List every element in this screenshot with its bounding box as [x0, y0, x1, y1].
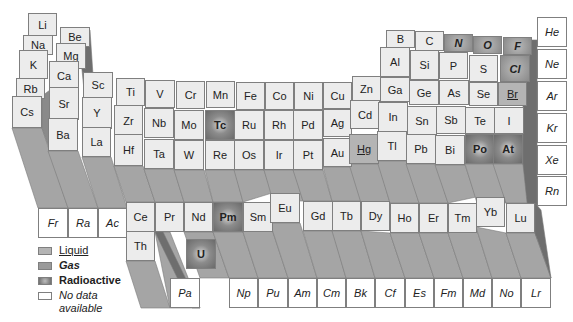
element-n: N	[444, 34, 473, 52]
element-zn: Zn	[352, 76, 381, 101]
element-pb: Pb	[406, 134, 436, 164]
element-th: Th	[126, 231, 155, 261]
element-ru: Ru	[234, 110, 264, 140]
element-br: Br	[498, 82, 527, 106]
legend-item-gas: Gas	[38, 259, 121, 274]
element-tb: Tb	[332, 201, 361, 231]
element-tc: Tc	[205, 110, 235, 140]
element-zr: Zr	[114, 105, 143, 136]
element-si: Si	[410, 50, 439, 80]
element-cl: Cl	[500, 55, 530, 82]
element-ar: Ar	[537, 81, 567, 111]
element-sb: Sb	[436, 106, 466, 134]
element-co: Co	[265, 82, 294, 110]
element-cu: Cu	[323, 82, 352, 109]
element-cr: Cr	[176, 81, 205, 109]
element-mo: Mo	[174, 110, 204, 140]
element-ir: Ir	[264, 140, 294, 170]
gas-swatch-icon	[38, 262, 52, 270]
element-mn: Mn	[206, 81, 235, 108]
element-no: No	[492, 278, 521, 308]
legend-label: Radioactive	[59, 274, 121, 286]
element-pm: Pm	[213, 202, 243, 232]
element-i: I	[494, 107, 524, 134]
element-kr: Kr	[537, 113, 567, 143]
element-la: La	[82, 127, 111, 157]
element-dy: Dy	[361, 201, 390, 231]
element-ge: Ge	[409, 80, 439, 105]
element-b: B	[386, 30, 415, 48]
legend-item-liquid: Liquid	[38, 244, 121, 259]
element-fr: Fr	[38, 208, 68, 238]
element-f: F	[503, 37, 532, 55]
element-in: In	[378, 102, 408, 132]
element-at: At	[493, 134, 523, 164]
element-pt: Pt	[293, 140, 323, 170]
element-am: Am	[288, 278, 317, 308]
element-ne: Ne	[537, 49, 567, 79]
element-tl: Tl	[377, 131, 407, 161]
element-np: Np	[229, 278, 258, 308]
element-nd: Nd	[184, 202, 213, 232]
element-cd: Cd	[350, 100, 380, 129]
radioactive-swatch-icon	[38, 277, 52, 285]
element-md: Md	[463, 278, 492, 308]
element-ca: Ca	[49, 61, 79, 90]
legend: Liquid Gas Radioactive No data available	[38, 244, 121, 317]
element-pu: Pu	[258, 278, 288, 308]
legend-item-radioactive: Radioactive	[38, 274, 121, 289]
element-y: Y	[82, 97, 112, 129]
element-u: U	[186, 239, 216, 269]
element-ni: Ni	[294, 82, 323, 110]
element-w: W	[174, 140, 204, 170]
element-cm: Cm	[317, 278, 346, 308]
element-as: As	[439, 80, 469, 105]
element-li: Li	[28, 13, 57, 36]
element-sn: Sn	[407, 106, 437, 135]
element-au: Au	[323, 138, 352, 167]
element-ti: Ti	[116, 78, 145, 106]
element-re: Re	[205, 140, 235, 170]
element-c: C	[415, 31, 444, 51]
legend-label: Gas	[59, 259, 80, 271]
element-hg: Hg	[349, 134, 379, 164]
element-nb: Nb	[144, 108, 174, 138]
element-cs: Cs	[12, 96, 42, 128]
element-v: V	[145, 80, 175, 108]
element-ce: Ce	[126, 202, 155, 232]
element-bk: Bk	[346, 278, 375, 308]
element-xe: Xe	[537, 145, 567, 175]
element-rh: Rh	[264, 110, 294, 140]
element-lu: Lu	[506, 203, 535, 233]
element-ra: Ra	[68, 208, 98, 238]
element-hf: Hf	[114, 134, 143, 166]
element-s: S	[469, 55, 498, 82]
element-ba: Ba	[48, 118, 78, 151]
legend-item-no-data: No data available	[38, 289, 121, 317]
element-ga: Ga	[380, 77, 410, 102]
periodic-table-diagram: LiBeNaMgKCaRbSrCsBaFrRaAcScYLaTiZrHfVNbT…	[0, 0, 573, 322]
element-te: Te	[465, 107, 495, 134]
element-p: P	[439, 52, 468, 79]
element-bi: Bi	[435, 135, 465, 165]
element-fm: Fm	[434, 278, 463, 308]
element-pr: Pr	[155, 202, 184, 232]
element-se: Se	[469, 82, 498, 106]
element-he: He	[537, 17, 567, 47]
element-ho: Ho	[390, 203, 419, 233]
element-eu: Eu	[270, 193, 300, 223]
element-al: Al	[380, 47, 410, 77]
element-os: Os	[234, 140, 264, 170]
element-sr: Sr	[49, 87, 79, 120]
element-tm: Tm	[448, 203, 477, 233]
element-sm: Sm	[243, 202, 273, 232]
element-ag: Ag	[323, 109, 352, 137]
element-gd: Gd	[303, 201, 333, 231]
element-pa: Pa	[170, 278, 200, 308]
element-sc: Sc	[83, 72, 113, 98]
element-fe: Fe	[236, 82, 265, 110]
element-cf: Cf	[375, 278, 405, 308]
no-data-swatch-icon	[38, 292, 52, 300]
element-ac: Ac	[98, 208, 127, 238]
element-k: K	[19, 50, 48, 79]
